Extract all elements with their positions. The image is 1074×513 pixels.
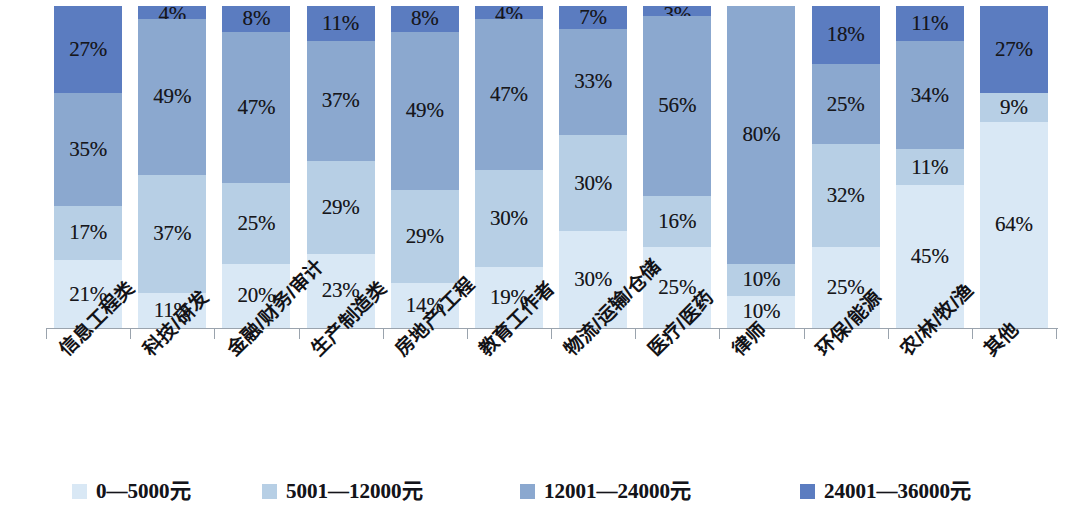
bar-segment: 47% (475, 19, 543, 170)
legend-color-swatch (72, 484, 87, 499)
bar-segment: 18% (812, 6, 880, 64)
x-axis-tick (214, 328, 215, 339)
legend-item[interactable]: 0—5000元 (72, 478, 191, 504)
bar-group: 18%25%32%25% (812, 6, 880, 328)
bar-segment-value-label: 49% (406, 100, 444, 121)
x-axis-tick (972, 328, 973, 339)
bar-segment: 27% (980, 6, 1048, 93)
bar-group: 4%49%37%11% (138, 6, 206, 328)
bar-segment: 11% (896, 149, 964, 184)
bar-segment: 34% (896, 41, 964, 149)
bar-segment: 10% (727, 264, 795, 296)
x-axis-tick (719, 328, 720, 339)
legend-item[interactable]: 5001—12000元 (262, 478, 423, 504)
bar-segment: 16% (643, 196, 711, 248)
bar-segment-value-label: 11% (911, 157, 948, 178)
bar-segment-value-label: 37% (153, 223, 191, 244)
bar-segment-value-label: 27% (995, 39, 1033, 60)
x-axis-tick (1056, 328, 1057, 339)
bar-segment: 17% (54, 206, 122, 261)
bar-segment-value-label: 18% (827, 24, 865, 45)
bar-segment-value-label: 10% (742, 269, 780, 290)
bar-segment-value-label: 17% (69, 222, 107, 243)
bar-segment: 37% (307, 41, 375, 160)
bar-segment: 7% (559, 6, 627, 29)
x-axis-tick (551, 328, 552, 339)
legend-item[interactable]: 24001—36000元 (800, 478, 971, 504)
bar-segment-value-label: 35% (69, 139, 107, 160)
bar-segment-value-label: 25% (827, 277, 865, 298)
x-axis-line (46, 328, 1058, 329)
bar-segment: 8% (222, 6, 290, 32)
chart-legend: 0—5000元5001—12000元12001—24000元24001—3600… (0, 478, 1074, 510)
x-axis-category-labels: 信息工程类科技/研发金融/财务/审计生产制造类房地产/工程教育工作者物流/运输/… (0, 330, 1074, 460)
bar-segment-value-label: 25% (237, 213, 275, 234)
x-axis-tick (130, 328, 131, 339)
bar-segment-value-label: 32% (827, 185, 865, 206)
bar-segment: 25% (222, 183, 290, 264)
bar-segment-value-label: 27% (69, 39, 107, 60)
bar-segment-value-label: 16% (658, 211, 696, 232)
bar-segment-value-label: 30% (574, 269, 612, 290)
bar-segment: 29% (307, 161, 375, 254)
legend-label: 0—5000元 (96, 481, 191, 502)
bar-segment-value-label: 49% (153, 86, 191, 107)
bar-segment-value-label: 8% (411, 8, 439, 29)
legend-color-swatch (800, 484, 815, 499)
bar-segment: 9% (980, 93, 1048, 122)
bar-segment: 49% (138, 19, 206, 175)
legend-color-swatch (520, 484, 535, 499)
bar-segment-value-label: 47% (490, 84, 528, 105)
stacked-bar-chart: 27%35%17%21%4%49%37%11%8%47%25%20%11%37%… (0, 0, 1074, 513)
bar-segment-value-label: 11% (911, 13, 948, 34)
legend-item[interactable]: 12001—24000元 (520, 478, 691, 504)
bar-segment: 35% (54, 93, 122, 206)
x-axis-tick (888, 328, 889, 339)
bar-segment-value-label: 80% (742, 124, 780, 145)
bar-segment-value-label: 11% (322, 13, 359, 34)
bar-segment-value-label: 37% (322, 90, 360, 111)
x-axis-tick (383, 328, 384, 339)
bar-segment-value-label: 29% (406, 226, 444, 247)
bar-segment: 49% (391, 32, 459, 190)
bar-segment: 30% (475, 170, 543, 267)
bar-group: 8%49%29%14% (391, 6, 459, 328)
bar-group: 11%34%11%45% (896, 6, 964, 328)
x-axis-tick (635, 328, 636, 339)
bar-segment: 8% (391, 6, 459, 32)
x-axis-tick (46, 328, 47, 339)
bar-segment-value-label: 47% (237, 97, 275, 118)
bar-segment-value-label: 33% (574, 71, 612, 92)
bar-segment: 32% (812, 144, 880, 247)
x-axis-tick (299, 328, 300, 339)
bar-segment: 11% (896, 6, 964, 41)
bar-segment-value-label: 56% (658, 95, 696, 116)
bar-segment: 37% (138, 175, 206, 293)
bar-segment: 47% (222, 32, 290, 183)
plot-area: 27%35%17%21%4%49%37%11%8%47%25%20%11%37%… (46, 6, 1056, 328)
legend-label: 5001—12000元 (286, 481, 423, 502)
bar-segment-value-label: 34% (911, 85, 949, 106)
bar-segment: 3% (643, 6, 711, 16)
bar-group: 80%10%10% (727, 6, 795, 328)
bar-segment: 80% (727, 6, 795, 264)
bar-segment-value-label: 9% (1000, 97, 1028, 118)
bar-segment: 11% (307, 6, 375, 41)
bar-segment-value-label: 30% (490, 208, 528, 229)
bar-segment: 33% (559, 29, 627, 135)
bar-segment-value-label: 10% (742, 301, 780, 322)
bar-segment-value-label: 25% (827, 94, 865, 115)
bar-segment: 56% (643, 16, 711, 196)
bar-segment: 27% (54, 6, 122, 93)
bar-segment: 4% (138, 6, 206, 19)
bar-segment: 64% (980, 122, 1048, 328)
bar-segment-value-label: 7% (579, 7, 607, 28)
legend-label: 12001—24000元 (544, 481, 691, 502)
bar-segment: 4% (475, 6, 543, 19)
bar-segment: 30% (559, 135, 627, 232)
bar-group: 7%33%30%30% (559, 6, 627, 328)
bar-group: 4%47%30%19% (475, 6, 543, 328)
x-axis-tick (804, 328, 805, 339)
bar-segment-value-label: 25% (658, 277, 696, 298)
legend-color-swatch (262, 484, 277, 499)
